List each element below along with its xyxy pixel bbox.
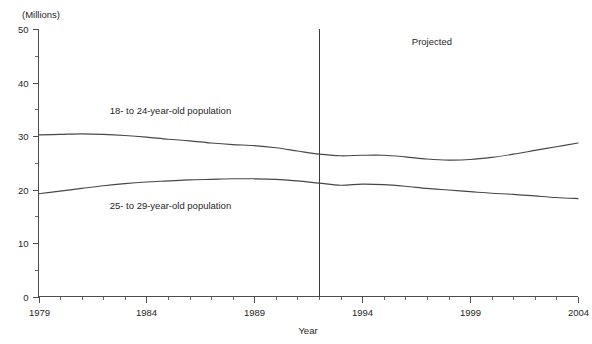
axis-lines — [39, 29, 579, 297]
y-tick-label: 20 — [18, 185, 29, 196]
series-annotation-1: 18- to 24-year-old population — [110, 105, 231, 116]
projected-label: Projected — [412, 36, 452, 47]
x-tick-label: 2004 — [568, 307, 589, 318]
y-axis: 01020304050 — [18, 24, 39, 303]
x-axis-title-group: Year — [298, 325, 317, 336]
y-tick-label: 30 — [18, 131, 29, 142]
y-tick-label: 50 — [18, 24, 29, 35]
population-projection-line-chart: (Millions) 01020304050 19791984198919941… — [0, 0, 592, 344]
y-axis-unit-group: (Millions) — [22, 9, 60, 20]
x-axis-title: Year — [298, 325, 317, 336]
y-axis-unit-label: (Millions) — [22, 9, 60, 20]
y-tick-label: 0 — [23, 292, 28, 303]
series-line-1 — [39, 134, 579, 160]
x-tick-label: 1994 — [352, 307, 373, 318]
x-tick-label: 1999 — [460, 307, 481, 318]
y-tick-label: 40 — [18, 78, 29, 89]
chart-container: (Millions) 01020304050 19791984198919941… — [0, 0, 592, 344]
chart-annotations: 18- to 24-year-old population25- to 29-y… — [110, 36, 452, 211]
y-tick-label: 10 — [18, 238, 29, 249]
x-tick-label: 1979 — [29, 307, 50, 318]
x-axis: 197919841989199419992004 — [29, 297, 589, 318]
x-tick-label: 1984 — [136, 307, 157, 318]
series-line-2 — [39, 179, 579, 199]
x-tick-label: 1989 — [244, 307, 265, 318]
series-annotation-2: 25- to 29-year-old population — [110, 200, 231, 211]
series-lines — [39, 134, 579, 199]
